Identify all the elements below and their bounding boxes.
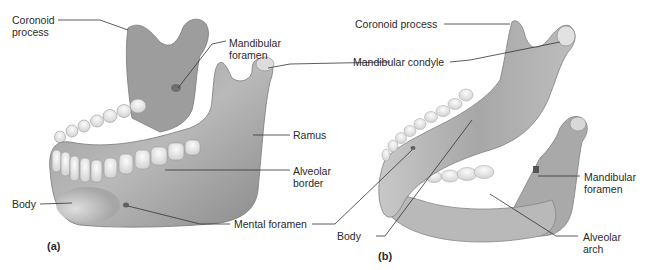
label-a-coronoid-process: Coronoid process	[12, 14, 55, 38]
label-a-alveolar-border-line1: Alveolar	[293, 165, 331, 177]
label-a-coronoid-process-line1: Coronoid	[12, 14, 55, 26]
label-b-mandibular-foramen-line2: foramen	[584, 183, 636, 195]
label-a-ramus: Ramus	[293, 129, 326, 141]
label-a-alveolar-border: Alveolar border	[293, 165, 331, 189]
label-a-mandibular-foramen-line2: foramen	[229, 49, 281, 61]
panel-tag-b: (b)	[378, 250, 392, 262]
label-a-mandibular-foramen: Mandibular foramen	[229, 37, 281, 61]
label-b-mandibular-foramen-line1: Mandibular	[584, 171, 636, 183]
label-a-coronoid-process-line2: process	[12, 26, 55, 38]
label-b-alveolar-arch-line1: Alveolar	[583, 231, 621, 243]
label-b-alveolar-arch-line2: arch	[583, 243, 621, 255]
label-mandibular-condyle: Mandibular condyle	[353, 56, 444, 68]
label-a-alveolar-border-line2: border	[293, 177, 331, 189]
label-b-alveolar-arch: Alveolar arch	[583, 231, 621, 255]
label-mental-foramen: Mental foramen	[234, 218, 307, 230]
label-b-body: Body	[337, 230, 361, 242]
label-b-coronoid-process: Coronoid process	[355, 18, 437, 30]
mandible-figure: Coronoid process Mandibular foramen Ramu…	[0, 0, 646, 270]
label-a-body: Body	[12, 198, 36, 210]
label-b-mandibular-foramen: Mandibular foramen	[584, 171, 636, 195]
panel-tag-a: (a)	[47, 240, 60, 252]
mandible-b	[379, 21, 587, 242]
label-a-mandibular-foramen-line1: Mandibular	[229, 37, 281, 49]
